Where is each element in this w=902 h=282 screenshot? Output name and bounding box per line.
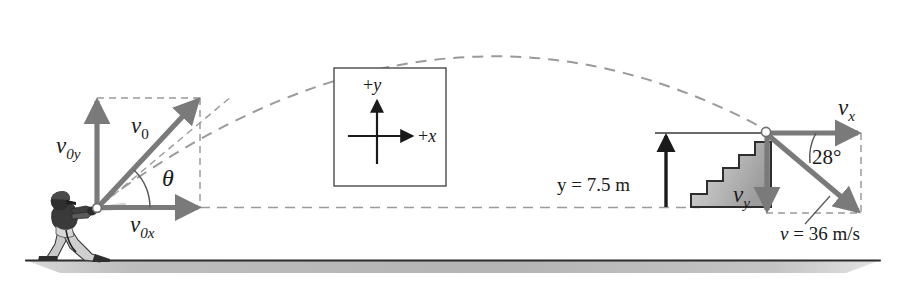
- landing-speed-label: v = 36 m/s: [780, 223, 860, 244]
- diagram-canvas: v0y v0 v0x θ +y +x y = 7.5 m: [0, 0, 902, 282]
- landing-angle-label: 28°: [812, 145, 841, 169]
- theta-label: θ: [162, 165, 174, 191]
- vx-label: vx: [838, 95, 855, 124]
- landing-point: [761, 127, 770, 136]
- v0-label: v0: [131, 113, 149, 142]
- ground-shadow: [28, 261, 878, 273]
- batter-figure: [38, 191, 124, 262]
- physics-diagram-projectile-motion: v0y v0 v0x θ +y +x y = 7.5 m: [0, 0, 902, 282]
- v0x-label: v0x: [130, 212, 155, 241]
- axis-label-plus-y: +y: [363, 75, 381, 95]
- axes-inset-box: +y +x: [334, 68, 446, 186]
- landing-vectors-group: [761, 127, 858, 224]
- v0y-label: v0y: [56, 133, 81, 162]
- stairs-shape: [691, 142, 771, 207]
- v0-vector-arrow: [99, 100, 198, 206]
- launch-origin-point: [93, 204, 102, 213]
- launch-vectors-group: [93, 100, 198, 212]
- axis-label-plus-x: +x: [418, 126, 436, 146]
- stairs-group: [691, 142, 771, 207]
- speed-leader-line: [805, 196, 830, 224]
- height-label: y = 7.5 m: [557, 174, 630, 195]
- ground-group: [26, 261, 880, 274]
